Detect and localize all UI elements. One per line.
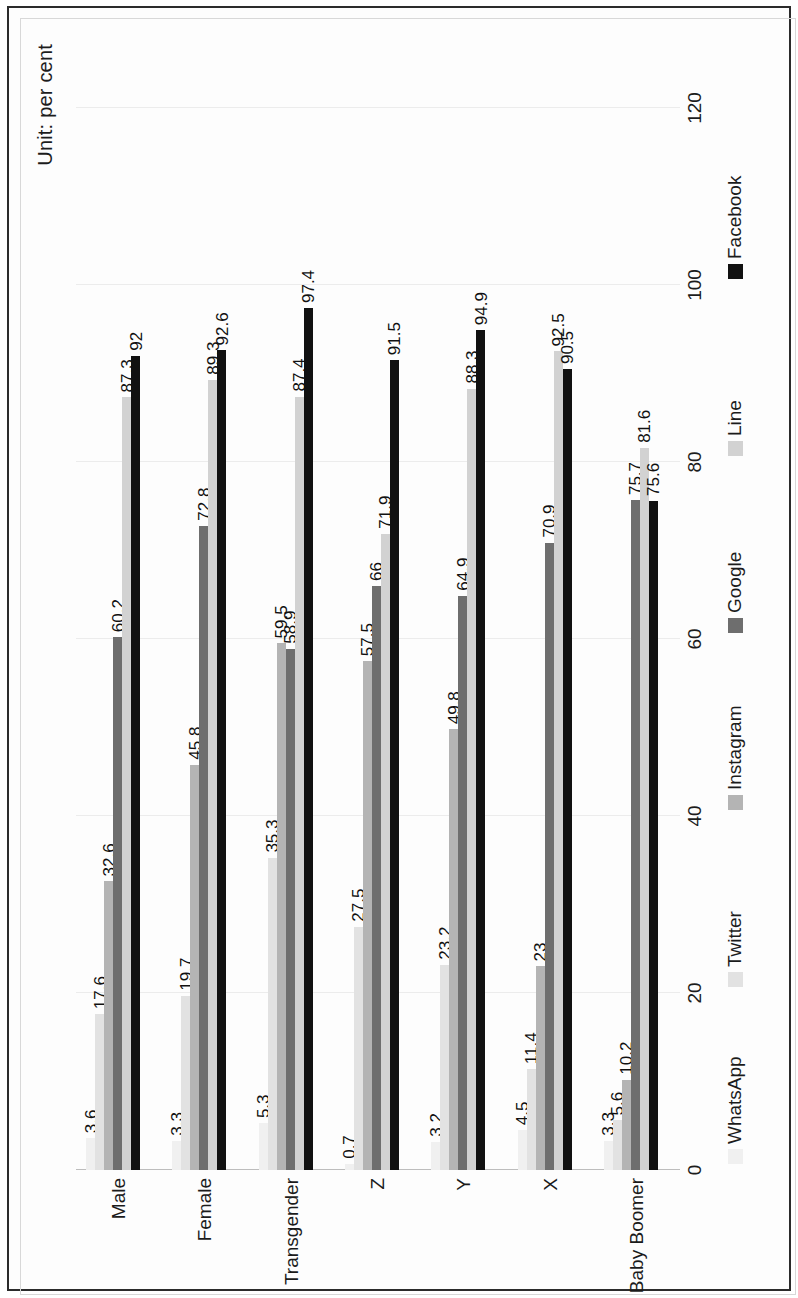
- category-group: Y3.223.249.864.988.394.9: [421, 108, 507, 1170]
- axis-tick-label: 120: [684, 92, 706, 124]
- bar-fill-whatsapp: [86, 1138, 95, 1170]
- bar-value-label: 81.6: [636, 410, 653, 443]
- legend-swatch-icon: [728, 264, 743, 279]
- bar: 64.9: [458, 596, 467, 1170]
- bar: 71.9: [381, 534, 390, 1170]
- category-group: Z0.727.557.56671.991.5: [335, 108, 421, 1170]
- legend-swatch-icon: [728, 618, 743, 633]
- bar: 57.5: [363, 661, 372, 1170]
- bar-fill-whatsapp: [172, 1141, 181, 1170]
- legend-item-line[interactable]: Line: [724, 400, 746, 456]
- bar: 45.8: [190, 765, 199, 1170]
- category-group: X4.511.42370.992.590.5: [507, 108, 593, 1170]
- category-group: Baby Boomer3.35.610.275.781.675.6: [594, 108, 680, 1170]
- bar-chart: Unit: per cent Male3.617.632.660.287.392…: [24, 26, 792, 1288]
- bar: 75.6: [649, 501, 658, 1170]
- bar-value-label: 75.6: [645, 463, 662, 496]
- category-label: Baby Boomer: [594, 1178, 680, 1290]
- bar-fill-facebook: [476, 330, 485, 1170]
- bar-fill-instagram: [104, 882, 113, 1171]
- bar: 60.2: [113, 637, 122, 1170]
- bar-fill-instagram: [449, 729, 458, 1170]
- legend-item-instagram[interactable]: Instagram: [724, 706, 746, 810]
- legend-label: Facebook: [724, 176, 746, 259]
- category-label: Female: [162, 1178, 248, 1290]
- axis-tick-label: 60: [684, 628, 706, 649]
- bar: 72.8: [199, 526, 208, 1170]
- bar-fill-instagram: [536, 966, 545, 1170]
- bar: 17.6: [95, 1014, 104, 1170]
- bar-fill-google: [631, 500, 640, 1170]
- bar-fill-line: [381, 534, 390, 1170]
- bar: 35.3: [268, 858, 277, 1170]
- bar-fill-line: [295, 397, 304, 1170]
- bar: 3.2: [431, 1142, 440, 1170]
- bar-fill-twitter: [181, 996, 190, 1170]
- bar-fill-instagram: [363, 661, 372, 1170]
- bar: 87.3: [122, 397, 131, 1170]
- bar-value-label: 94.9: [472, 292, 489, 325]
- bar: 27.5: [354, 927, 363, 1170]
- bar-value-label: 92.6: [213, 312, 230, 345]
- bar-fill-line: [122, 397, 131, 1170]
- bar: 19.7: [181, 996, 190, 1170]
- axis-tick-label: 20: [684, 982, 706, 1003]
- bar: 10.2: [622, 1080, 631, 1170]
- unit-note: Unit: per cent: [34, 44, 57, 166]
- axis-tick-label: 100: [684, 269, 706, 301]
- legend-item-whatsapp[interactable]: WhatsApp: [724, 1056, 746, 1164]
- bar: 91.5: [390, 360, 399, 1170]
- legend-swatch-icon: [728, 972, 743, 987]
- bar: 75.7: [631, 500, 640, 1170]
- bar: 58.9: [286, 649, 295, 1170]
- bar-fill-twitter: [268, 858, 277, 1170]
- legend-item-google[interactable]: Google: [724, 552, 746, 633]
- bar-fill-twitter: [613, 1120, 622, 1170]
- bar: 23.2: [440, 965, 449, 1170]
- bar-fill-line: [208, 380, 217, 1170]
- legend-swatch-icon: [728, 795, 743, 810]
- category-group: Transgender5.335.359.558.987.497.4: [249, 108, 335, 1170]
- bar-fill-line: [640, 448, 649, 1170]
- bar: 3.3: [172, 1141, 181, 1170]
- bar-fill-whatsapp: [518, 1130, 527, 1170]
- page-border: Unit: per cent Male3.617.632.660.287.392…: [7, 6, 791, 1291]
- plot-area: Male3.617.632.660.287.392Female3.319.745…: [76, 108, 680, 1170]
- bar: 23: [536, 966, 545, 1170]
- axis-tick-label: 40: [684, 805, 706, 826]
- category-label: Male: [76, 1178, 162, 1290]
- bar: 70.9: [545, 543, 554, 1170]
- bar-fill-whatsapp: [259, 1123, 268, 1170]
- bar: 11.4: [527, 1069, 536, 1170]
- bar-fill-facebook: [649, 501, 658, 1170]
- bar-fill-facebook: [304, 308, 313, 1170]
- bar-fill-facebook: [131, 356, 140, 1170]
- bar: 87.4: [295, 397, 304, 1170]
- category-label: Y: [421, 1178, 507, 1290]
- bar: 59.5: [277, 643, 286, 1170]
- bar-fill-google: [458, 596, 467, 1170]
- bar-fill-instagram: [277, 643, 286, 1170]
- legend-item-twitter[interactable]: Twitter: [724, 911, 746, 987]
- axis-tick-label: 80: [684, 451, 706, 472]
- bar-fill-google: [286, 649, 295, 1170]
- bar-fill-google: [545, 543, 554, 1170]
- legend-label: Twitter: [724, 911, 746, 967]
- bar: 49.8: [449, 729, 458, 1170]
- bar-fill-twitter: [527, 1069, 536, 1170]
- bar: 92.6: [217, 351, 226, 1171]
- chart-legend: WhatsAppTwitterInstagramGoogleLineFacebo…: [724, 108, 764, 1170]
- category-group: Male3.617.632.660.287.392: [76, 108, 162, 1170]
- value-axis-ticks: 020406080100120: [680, 108, 714, 1170]
- legend-label: Instagram: [724, 706, 746, 790]
- bar: 92.5: [554, 351, 563, 1170]
- bar-fill-whatsapp: [431, 1142, 440, 1170]
- bar-fill-facebook: [217, 351, 226, 1171]
- bar-fill-instagram: [190, 765, 199, 1170]
- rotated-chart-container: Unit: per cent Male3.617.632.660.287.392…: [24, 26, 792, 1288]
- bar: 66: [372, 586, 381, 1170]
- axis-tick-label: 0: [684, 1165, 706, 1176]
- bar: 88.3: [467, 389, 476, 1170]
- legend-item-facebook[interactable]: Facebook: [724, 176, 746, 279]
- bar-fill-facebook: [563, 369, 572, 1170]
